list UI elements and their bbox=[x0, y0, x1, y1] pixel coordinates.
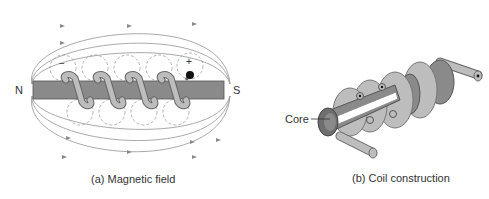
iron-core-bar bbox=[33, 81, 224, 99]
plus-sign: + bbox=[186, 56, 192, 67]
coil-construction-drawing bbox=[311, 60, 482, 158]
caption-magnetic-field: (a) Magnetic field bbox=[91, 173, 175, 185]
diagram-canvas bbox=[0, 0, 489, 199]
core-label: Core bbox=[285, 113, 309, 125]
caption-coil-construction: (b) Coil construction bbox=[352, 172, 450, 184]
south-pole-label: S bbox=[233, 84, 240, 96]
north-pole-label: N bbox=[15, 84, 23, 96]
minus-sign: − bbox=[59, 58, 65, 69]
terminal-dot-icon bbox=[186, 71, 194, 79]
